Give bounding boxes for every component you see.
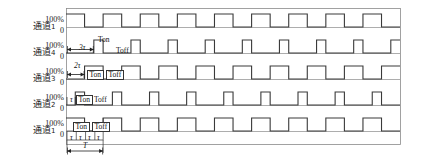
tau-segment-3: τ [97,134,100,142]
waveform-plot [0,0,425,161]
toff-label-row-3: Toff [94,96,107,104]
tau-segment-0: τ [70,134,73,142]
toff-label-row-2: Toff [106,70,124,80]
timing-diagram-figure: 通道1 通道4 通道3 通道2 通道1 100% 0 100% 0 100% 0… [0,0,425,161]
delay-label-row-2: 2τ [74,62,80,70]
ton-label-row-1: Ton [98,36,110,44]
toff-label-row-4: Toff [92,122,110,132]
ton-label-row-4: Ton [73,122,90,132]
ton-label-row-3: Ton [76,95,93,105]
tau-segment-2: τ [88,134,91,142]
ton-label-row-2: Ton [87,70,104,80]
toff-label-row-1: Toff [116,47,129,55]
tau-segment-1: τ [79,134,82,142]
period-label: T [83,142,87,150]
delay-label-row-1: 3τ [79,44,85,52]
delay-label-row-3: τ [70,96,73,104]
